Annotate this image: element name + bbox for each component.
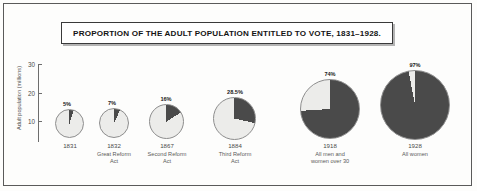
pie-caption-line-2: Act: [209, 158, 261, 165]
y-axis-line: [38, 64, 39, 142]
pie-year-label-1832: 1832: [96, 142, 132, 149]
chart-figure: PROPORTION OF THE ADULT POPULATION ENTIT…: [0, 0, 477, 191]
pie-caption-1928: All women: [390, 151, 440, 158]
y-axis-tick-20: [38, 93, 42, 94]
pie-year-label-1867: 1867: [148, 142, 186, 149]
y-axis-label: Adult population (millions): [16, 43, 22, 153]
pie-percent-label-1832: 7%: [101, 100, 123, 106]
pie-percent-label-1928: 97%: [403, 62, 427, 68]
pie-percent-label-1884: 28.5%: [221, 89, 249, 95]
pie-caption-line-2: Act: [89, 158, 139, 165]
pie-slice-1867: [149, 104, 184, 139]
pie-caption-1918: All men and women over 30: [301, 151, 359, 165]
y-axis-tick-label-30: 30: [21, 61, 35, 68]
pie-slice-1831: [55, 109, 84, 138]
pie-caption-line-1: Second Reform: [140, 151, 194, 158]
pie-caption-1832: Great Reform Act: [89, 151, 139, 165]
pie-percent-label-1867: 16%: [154, 96, 178, 102]
pie-slice-1832: [99, 108, 129, 138]
pie-percent-label-1918: 74%: [318, 71, 342, 77]
pie-caption-line-1: All men and: [301, 151, 359, 158]
y-axis-tick-10: [38, 121, 42, 122]
pie-slice-1884: [213, 97, 256, 140]
y-axis-tick-label-10: 10: [21, 118, 35, 125]
pie-caption-line-1: Great Reform: [89, 151, 139, 158]
y-axis-tick-label-20: 20: [21, 90, 35, 97]
pie-caption-line-1: Third Reform: [209, 151, 261, 158]
pie-caption-1867: Second Reform Act: [140, 151, 194, 165]
pie-percent-label-1831: 5%: [56, 101, 78, 107]
pie-caption-line-2: women over 30: [301, 158, 359, 165]
pie-slice-1918: [300, 79, 360, 139]
chart-title-plate: PROPORTION OF THE ADULT POPULATION ENTIT…: [61, 22, 393, 44]
pie-year-label-1918: 1918: [311, 142, 349, 149]
page-title: PROPORTION OF THE ADULT POPULATION ENTIT…: [73, 29, 381, 38]
pie-caption-line-2: Act: [140, 158, 194, 165]
pie-caption-1884: Third Reform Act: [209, 151, 261, 165]
pie-year-label-1928: 1928: [396, 142, 434, 149]
pie-year-label-1884: 1884: [216, 142, 254, 149]
y-axis-tick-30: [38, 64, 42, 65]
pie-year-label-1831: 1831: [52, 142, 88, 149]
pie-slice-1928: [380, 70, 450, 140]
pie-caption-line-1: All women: [390, 151, 440, 158]
